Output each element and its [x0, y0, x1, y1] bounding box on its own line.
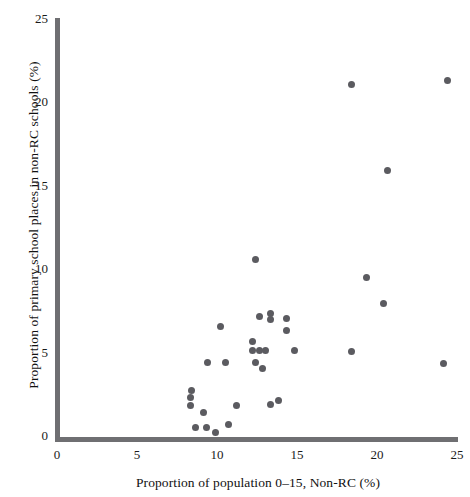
x-axis-title: Proportion of population 0–15, Non-RC (%… [57, 475, 459, 491]
scatter-point [291, 347, 298, 354]
scatter-point [252, 256, 259, 263]
y-tick-label-5: 5 [6, 345, 48, 361]
scatter-point [348, 348, 355, 355]
y-tick-label-25: 25 [6, 11, 48, 27]
x-tick-label-10: 10 [197, 447, 237, 463]
x-tick-label-20: 20 [357, 447, 397, 463]
x-tick-label-5: 5 [117, 447, 157, 463]
x-axis-line [55, 437, 458, 442]
y-tick-label-15: 15 [6, 178, 48, 194]
y-tick-label-20: 20 [6, 94, 48, 110]
scatter-point [363, 274, 370, 281]
y-axis-line [55, 18, 60, 442]
scatter-point [267, 401, 274, 408]
scatter-point [249, 338, 256, 345]
scatter-point [283, 315, 290, 322]
scatter-point [256, 313, 263, 320]
scatter-point [187, 402, 194, 409]
scatter-point [200, 409, 207, 416]
scatter-point [217, 323, 224, 330]
scatter-point [249, 347, 256, 354]
y-axis-title: Proportion of primary school places in n… [26, 5, 42, 445]
scatter-point [188, 387, 195, 394]
scatter-point [192, 424, 199, 431]
scatter-point [187, 394, 194, 401]
scatter-point [384, 167, 391, 174]
scatter-point [380, 300, 387, 307]
scatter-point [203, 424, 210, 431]
scatter-point [233, 402, 240, 409]
scatter-point [204, 359, 211, 366]
scatter-point [267, 310, 274, 317]
scatter-points-layer [0, 0, 470, 497]
x-tick-label-25: 25 [437, 447, 470, 463]
scatter-chart-figure: Proportion of primary school places in n… [0, 0, 470, 497]
scatter-point [222, 359, 229, 366]
x-tick-label-15: 15 [277, 447, 317, 463]
scatter-point [440, 360, 447, 367]
scatter-point [262, 347, 269, 354]
scatter-point [259, 365, 266, 372]
scatter-point [256, 347, 263, 354]
y-tick-label-0: 0 [6, 428, 48, 444]
scatter-point [212, 429, 219, 436]
scatter-point [275, 397, 282, 404]
scatter-point [444, 77, 451, 84]
y-tick-label-10: 10 [6, 261, 48, 277]
scatter-point [225, 421, 232, 428]
scatter-point [252, 359, 259, 366]
scatter-point [348, 81, 355, 88]
scatter-point [267, 316, 274, 323]
scatter-point [283, 327, 290, 334]
x-tick-label-0: 0 [37, 447, 77, 463]
